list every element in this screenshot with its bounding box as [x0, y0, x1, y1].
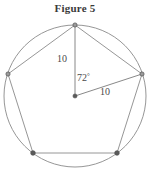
degree-symbol-icon: ° — [87, 72, 90, 80]
figure-container: Figure 5 10 10 72° — [0, 0, 150, 171]
central-angle-label: 72° — [77, 72, 90, 83]
radius-label-right: 10 — [100, 86, 110, 97]
vertex-marker-bottom-right — [115, 151, 120, 156]
vertex-marker-bottom-left — [31, 151, 36, 156]
vertex-marker-left — [6, 72, 10, 76]
vertex-marker-right — [140, 72, 144, 76]
vertex-marker-top — [73, 23, 77, 27]
radius-label-top: 10 — [57, 53, 67, 64]
geometry-diagram — [0, 0, 150, 171]
central-angle-value: 72 — [77, 72, 87, 83]
circle-center-point — [73, 94, 77, 98]
